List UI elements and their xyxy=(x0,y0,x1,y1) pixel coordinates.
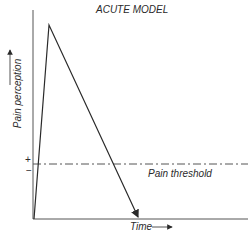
x-axis-label: Time xyxy=(130,221,152,232)
threshold-label: Pain threshold xyxy=(148,168,212,179)
diagram-title: ACUTE MODEL xyxy=(96,4,168,15)
pain-curve xyxy=(34,25,138,219)
threshold-plus-marker: + xyxy=(25,154,31,165)
threshold-minus-marker: − xyxy=(26,165,32,176)
acute-model-diagram xyxy=(0,0,250,239)
y-axis-label: Pain perception xyxy=(12,39,23,149)
